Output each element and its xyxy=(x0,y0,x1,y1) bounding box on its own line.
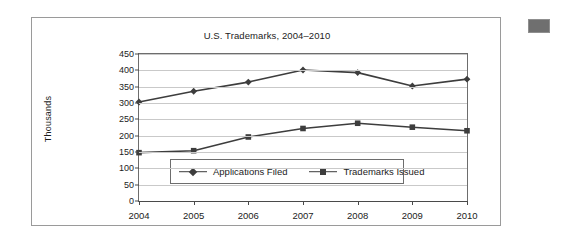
y-axis-tick-mark xyxy=(135,70,139,71)
gridline xyxy=(139,168,467,169)
y-axis-tick-label: 0 xyxy=(129,196,134,206)
legend-item-applications-filed: Applications Filed xyxy=(179,160,287,183)
y-axis-tick-mark xyxy=(135,54,139,55)
x-axis-tick-mark xyxy=(467,201,468,205)
gridline xyxy=(139,185,467,186)
y-axis-tick-label: 300 xyxy=(119,98,134,108)
y-axis-tick-label: 150 xyxy=(119,147,134,157)
y-axis-tick-label: 200 xyxy=(119,131,134,141)
y-axis-tick-mark xyxy=(135,152,139,153)
y-axis-tick-label: 400 xyxy=(119,65,134,75)
chart-title: U.S. Trademarks, 2004–2010 xyxy=(32,30,502,41)
gridline xyxy=(139,136,467,137)
data-point-marker xyxy=(464,76,471,83)
decorative-gray-block xyxy=(528,19,550,33)
y-axis-tick-label: 100 xyxy=(119,163,134,173)
y-axis-label: Thousands xyxy=(43,74,53,164)
y-axis-tick-label: 50 xyxy=(124,180,134,190)
data-point-marker xyxy=(464,128,470,134)
x-axis-tick-mark xyxy=(139,201,140,205)
y-axis-tick-mark xyxy=(135,103,139,104)
chart-legend: Applications Filed Trademarks Issued xyxy=(170,159,404,184)
y-axis-tick-mark xyxy=(135,135,139,136)
x-axis-tick-mark xyxy=(303,201,304,205)
square-marker-icon xyxy=(309,166,337,178)
gridline xyxy=(139,87,467,88)
data-point-marker xyxy=(410,124,416,130)
x-axis-tick-mark xyxy=(358,201,359,205)
y-axis-tick-label: 250 xyxy=(119,114,134,124)
y-axis-tick-mark xyxy=(135,119,139,120)
x-axis-tick-label: 2007 xyxy=(292,210,313,221)
y-axis-tick-mark xyxy=(135,184,139,185)
x-axis-tick-label: 2005 xyxy=(183,210,204,221)
x-axis-tick-label: 2010 xyxy=(456,210,477,221)
x-axis-tick-label: 2006 xyxy=(238,210,259,221)
y-axis-tick-label: 450 xyxy=(119,49,134,59)
figure-frame: U.S. Trademarks, 2004–2010 Thousands App… xyxy=(31,17,501,226)
x-axis-tick-label: 2008 xyxy=(347,210,368,221)
gridline xyxy=(139,119,467,120)
x-axis-tick-label: 2009 xyxy=(402,210,423,221)
y-axis-tick-mark xyxy=(135,86,139,87)
data-point-marker xyxy=(300,126,306,132)
x-axis-tick-mark xyxy=(194,201,195,205)
gridline xyxy=(139,152,467,153)
y-axis-tick-mark xyxy=(135,168,139,169)
y-axis-tick-label: 350 xyxy=(119,82,134,92)
legend-item-trademarks-issued: Trademarks Issued xyxy=(309,160,424,183)
gridline xyxy=(139,54,467,55)
data-point-marker xyxy=(355,120,361,126)
gridline xyxy=(139,70,467,71)
gridline xyxy=(139,103,467,104)
diamond-marker-icon xyxy=(179,166,207,178)
data-point-marker xyxy=(190,88,197,95)
x-axis-tick-mark xyxy=(248,201,249,205)
x-axis-tick-label: 2004 xyxy=(128,210,149,221)
data-point-marker xyxy=(245,79,252,86)
plot-area: Applications Filed Trademarks Issued 050… xyxy=(138,53,468,202)
x-axis-tick-mark xyxy=(412,201,413,205)
